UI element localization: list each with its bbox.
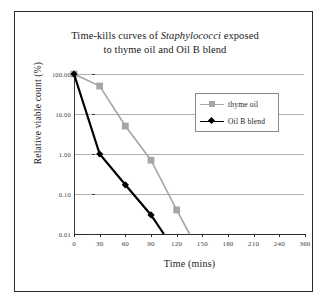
chart-legend: thyme oil Oil B blend: [195, 93, 279, 132]
x-tick-mark: [125, 234, 126, 237]
legend-label-oil-b-blend: Oil B blend: [228, 117, 265, 126]
y-axis-title: Relative viable count (%): [33, 43, 43, 183]
data-point-marker: [173, 207, 180, 214]
legend-item-oil-b-blend[interactable]: Oil B blend: [200, 114, 265, 128]
diamond-marker-icon: [200, 116, 224, 126]
series-line-oil-b-blend: [74, 74, 164, 234]
legend-item-thyme-oil[interactable]: thyme oil: [200, 97, 258, 111]
series-line-thyme-oil: [74, 74, 190, 234]
data-point-marker: [96, 83, 103, 90]
x-tick-mark: [228, 234, 229, 237]
legend-square: [209, 101, 215, 107]
x-tick-mark: [74, 234, 75, 237]
legend-diamond: [208, 117, 215, 124]
x-tick-mark: [254, 234, 255, 237]
x-axis-title: Time (mins): [74, 258, 305, 269]
chart-figure: Time-kills curves of Staphylococci expos…: [14, 11, 313, 292]
x-tick-mark: [202, 234, 203, 237]
legend-label-thyme-oil: thyme oil: [228, 100, 258, 109]
x-tick-mark: [100, 234, 101, 237]
x-tick-mark: [151, 234, 152, 237]
square-marker-icon: [200, 99, 224, 109]
series-layer: [15, 12, 314, 293]
data-point-marker: [122, 123, 129, 130]
x-tick-mark: [279, 234, 280, 237]
x-tick-mark: [305, 234, 306, 237]
data-point-marker: [148, 157, 155, 164]
x-tick-mark: [177, 234, 178, 237]
